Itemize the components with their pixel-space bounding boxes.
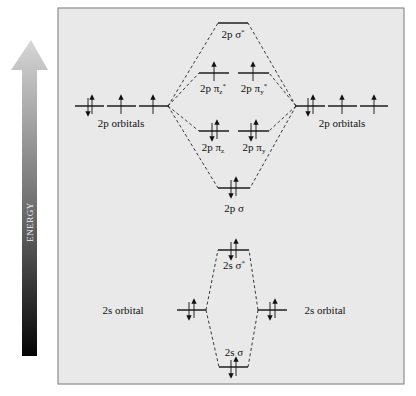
left-2s-label: 2s orbital <box>102 304 143 316</box>
right-2p-label: 2p orbitals <box>319 117 366 129</box>
pi2pz-label: 2p πz <box>202 141 224 155</box>
energy-axis-arrow: ENERGY <box>11 40 48 356</box>
sigma2p-label: 2p σ <box>224 202 244 214</box>
right-2s-label: 2s orbital <box>304 304 345 316</box>
left-2p-label: 2p orbitals <box>98 117 145 129</box>
pi2py-star-label: 2p πy* <box>241 82 268 96</box>
energy-axis-label: ENERGY <box>25 202 35 242</box>
mo-diagram: ENERGY <box>0 0 416 396</box>
sigma2s-label: 2s σ <box>225 346 244 358</box>
